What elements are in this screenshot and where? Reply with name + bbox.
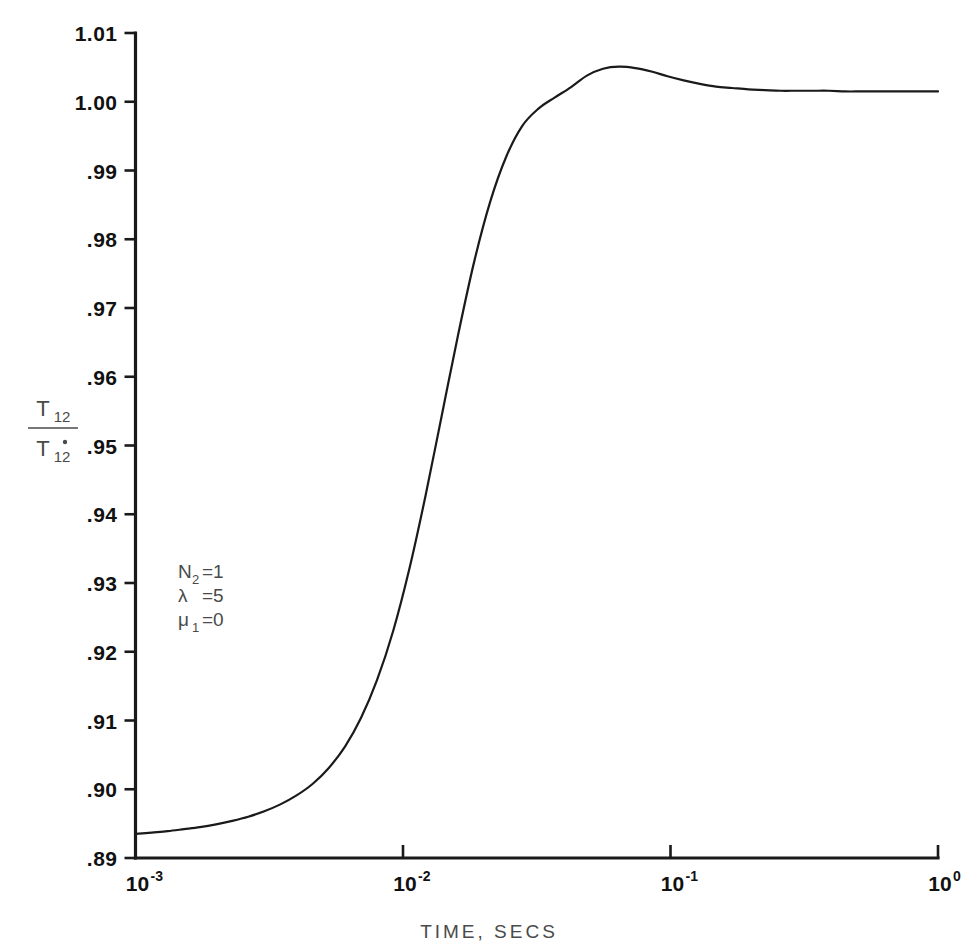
x-tick-label: 10 xyxy=(393,872,416,895)
annotation-subscript: 1 xyxy=(192,620,199,635)
x-tick-label-exponent: 0 xyxy=(953,868,961,884)
y-tick-label: .92 xyxy=(87,641,118,664)
y-tick-label: .97 xyxy=(87,297,118,320)
y-tick-label: .99 xyxy=(87,160,118,183)
x-tick-label-exponent: -3 xyxy=(151,868,164,884)
y-axis-label-denominator-subscript: 12 xyxy=(54,448,71,465)
x-tick-label-exponent: -2 xyxy=(418,868,431,884)
y-axis-label-derivative-dot-icon xyxy=(63,440,67,444)
y-axis-label-numerator-symbol: T xyxy=(36,396,49,421)
y-tick-label: .89 xyxy=(87,847,118,870)
y-tick-label: .95 xyxy=(87,435,118,458)
y-tick-label: .96 xyxy=(87,366,118,389)
x-tick-label: 10 xyxy=(928,872,951,895)
annotation-symbol: λ xyxy=(178,585,188,606)
annotation-value: =0 xyxy=(202,609,224,630)
x-tick-label-exponent: -1 xyxy=(686,868,699,884)
annotation-value: =5 xyxy=(202,585,224,606)
annotation-symbol: μ xyxy=(178,609,189,630)
x-tick-label: 10 xyxy=(126,872,149,895)
figure-background xyxy=(0,0,978,950)
y-axis-label-denominator-symbol: T xyxy=(36,436,49,461)
y-tick-label: .90 xyxy=(87,778,118,801)
x-tick-label: 10 xyxy=(661,872,684,895)
annotation-value: =1 xyxy=(202,561,224,582)
annotation-subscript: 2 xyxy=(192,572,199,587)
annotation-symbol: N xyxy=(178,561,192,582)
y-tick-label: .98 xyxy=(87,228,118,251)
y-tick-label: .91 xyxy=(87,710,118,733)
y-tick-label: 1.01 xyxy=(75,22,118,45)
figure-chart: 1.011.00.99.98.97.96.95.94.93.92.91.90.8… xyxy=(0,0,978,950)
x-axis-title: TIME, SECS xyxy=(420,921,558,942)
y-tick-label: 1.00 xyxy=(75,91,118,114)
y-tick-label: .94 xyxy=(87,503,118,526)
y-tick-label: .93 xyxy=(87,572,118,595)
y-axis-label-numerator-subscript: 12 xyxy=(54,408,71,425)
